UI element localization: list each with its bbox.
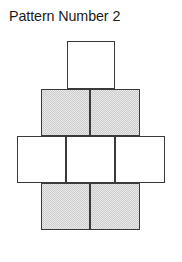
cell-r3-c3 (115, 136, 165, 183)
cell-r3-c1 (17, 136, 66, 183)
cell-r1-c1 (67, 41, 115, 89)
cell-r4-c2 (90, 183, 140, 230)
cell-r2-c1 (41, 89, 90, 136)
cell-r2-c2 (90, 89, 140, 136)
pattern-figure (0, 0, 182, 262)
cell-r3-c2 (66, 136, 115, 183)
cell-r4-c1 (41, 183, 90, 230)
